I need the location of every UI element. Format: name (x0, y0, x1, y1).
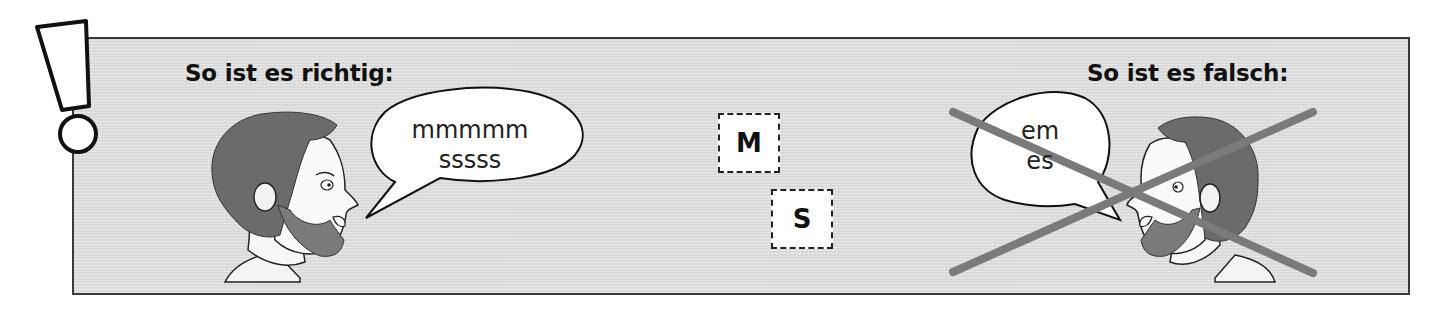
speech-text-correct: mmmmm sssss (405, 115, 535, 175)
heading-correct: So ist es richtig: (185, 60, 393, 86)
letter-box-m: M (718, 113, 780, 173)
speech-line: mmmmm (405, 115, 535, 145)
exclamation-mark-icon (37, 21, 96, 152)
letter-box-s: S (771, 189, 833, 249)
speech-text-wrong: em es (1005, 116, 1075, 176)
heading-wrong: So ist es falsch: (1087, 60, 1288, 86)
speech-line: em (1005, 116, 1075, 146)
speech-line: es (1005, 146, 1075, 176)
speech-line: sssss (405, 145, 535, 175)
man-illustration-correct (212, 112, 358, 282)
